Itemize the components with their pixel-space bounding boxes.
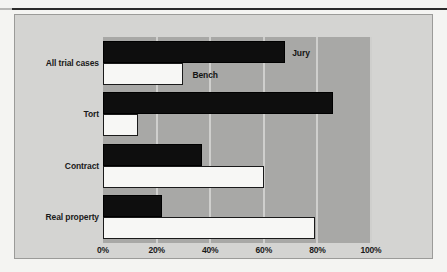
series-label-jury: Jury [292,48,310,58]
series-label-bench: Bench [192,70,217,80]
gridline [370,37,372,243]
gridline [209,37,211,243]
chart-figure: All trial casesTortContractReal property… [14,14,433,259]
page-header-rule-fade [0,8,12,10]
category-label-real-property: Real property [15,212,99,222]
page-header-rule [10,8,447,10]
bar-bench-tort [103,114,138,136]
x-tick-80pct: 80% [309,245,325,255]
bar-jury-tort [103,92,333,114]
category-label-tort: Tort [15,109,99,119]
x-tick-100pct: 100% [361,245,382,255]
bar-jury-real-property [103,195,162,217]
bar-jury-all-trial-cases [103,41,285,63]
x-tick-40pct: 40% [202,245,218,255]
x-tick-60pct: 60% [256,245,272,255]
scanned-page-background: All trial casesTortContractReal property… [0,0,447,272]
bar-jury-contract [103,144,202,166]
category-label-all-trial-cases: All trial cases [15,58,99,68]
x-tick-0pct: 0% [97,245,109,255]
x-tick-20pct: 20% [148,245,164,255]
bar-bench-real-property [103,217,315,239]
category-axis-labels: All trial casesTortContractReal property [15,37,99,243]
x-axis-tick-labels: 0%20%40%60%80%100% [103,245,371,259]
gridline [316,37,318,243]
bar-bench-contract [103,166,264,188]
bar-bench-all-trial-cases [103,63,183,85]
category-label-contract: Contract [15,161,99,171]
gridline [263,37,265,243]
plot-area: JuryBench [103,37,371,243]
